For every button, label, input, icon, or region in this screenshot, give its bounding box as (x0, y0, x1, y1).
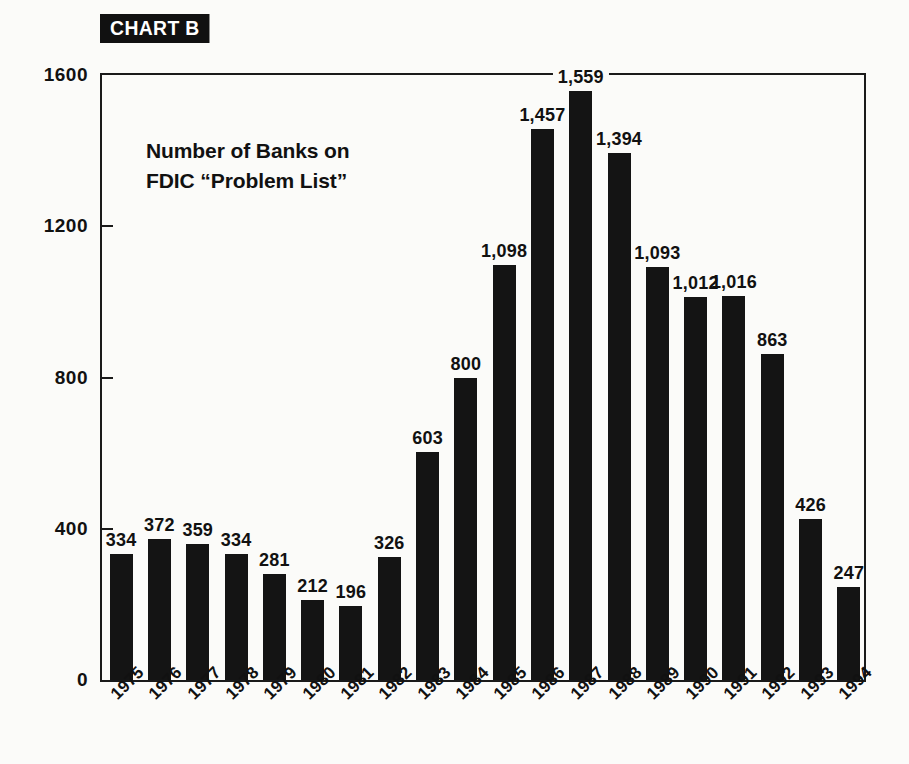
bar-value-label: 1,016 (711, 272, 757, 293)
bar-value-label: 1,098 (481, 241, 527, 262)
bar[interactable] (569, 91, 592, 680)
bar[interactable] (646, 267, 669, 680)
bar[interactable] (225, 554, 248, 680)
y-axis-tick-label: 800 (55, 367, 88, 389)
bar-value-label: 372 (144, 515, 175, 536)
bar-value-label: 281 (259, 550, 290, 571)
bar[interactable] (684, 297, 707, 680)
bar[interactable] (263, 574, 286, 680)
bar[interactable] (454, 378, 477, 681)
bar-value-label: 1,559 (553, 67, 609, 88)
bar-value-label: 603 (412, 428, 443, 449)
bar[interactable] (837, 587, 860, 680)
bar-value-label: 1,457 (519, 105, 565, 126)
bar-value-label: 196 (336, 582, 367, 603)
y-axis-tick-label: 1600 (44, 64, 88, 86)
plot-area: 3343723593342812121963266038001,0981,457… (100, 73, 866, 682)
bar[interactable] (416, 452, 439, 680)
y-axis-tick-mark (102, 225, 113, 227)
bar-value-label: 334 (106, 530, 137, 551)
bar[interactable] (148, 539, 171, 680)
bar-value-label: 1,093 (634, 243, 680, 264)
chart-badge: CHART B (100, 14, 210, 43)
bar-value-label: 247 (834, 563, 865, 584)
bar[interactable] (186, 544, 209, 680)
y-axis: 040080012001600 (0, 0, 88, 764)
bar-value-label: 863 (757, 330, 788, 351)
bar-value-label: 426 (795, 495, 826, 516)
bar[interactable] (531, 129, 554, 680)
chart-badge-label: CHART B (110, 16, 200, 39)
bar-value-label: 800 (451, 354, 482, 375)
bar[interactable] (722, 296, 745, 680)
bar-value-label: 212 (297, 576, 328, 597)
bar-value-label: 359 (182, 520, 213, 541)
bar-value-label: 1,394 (596, 129, 642, 150)
bar[interactable] (608, 153, 631, 680)
y-axis-tick-label: 0 (77, 669, 88, 691)
bar-value-label: 334 (221, 530, 252, 551)
bar-value-label: 326 (374, 533, 405, 554)
bar[interactable] (799, 519, 822, 680)
y-axis-tick-label: 400 (55, 518, 88, 540)
bar[interactable] (493, 265, 516, 680)
bar[interactable] (378, 557, 401, 680)
y-axis-tick-mark (102, 377, 113, 379)
y-axis-tick-label: 1200 (44, 215, 88, 237)
bar[interactable] (110, 554, 133, 680)
bar[interactable] (761, 354, 784, 680)
